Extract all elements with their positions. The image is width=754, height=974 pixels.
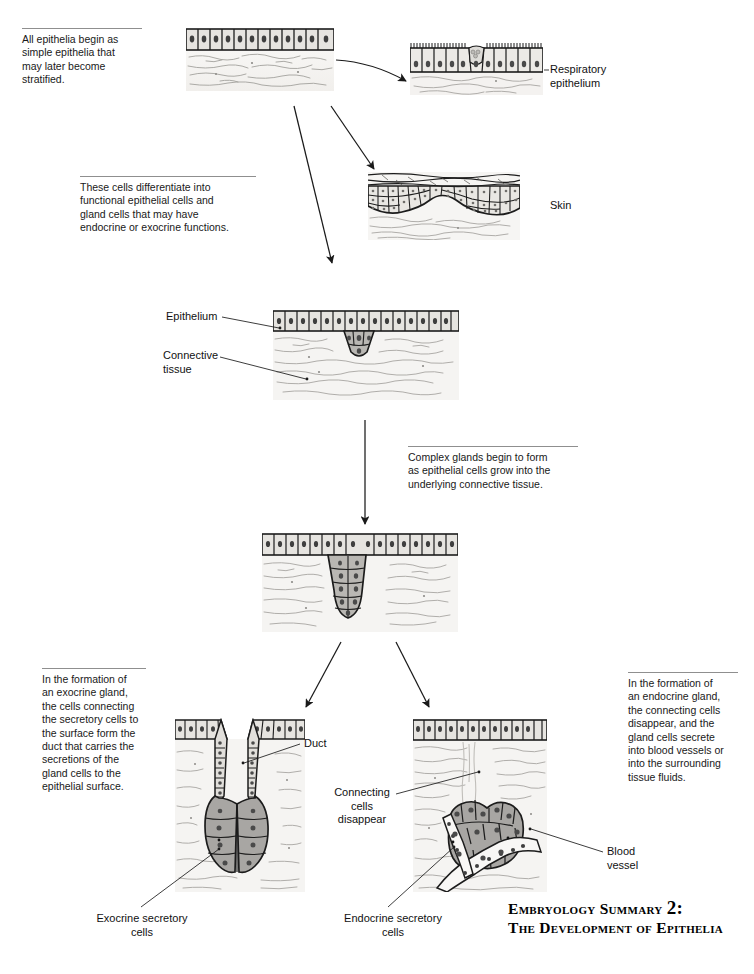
connector-overlay (0, 0, 754, 974)
caption-line-1: Embryology Summary 2: (508, 898, 723, 918)
label-respiratory-epithelium: Respiratory epithelium (550, 63, 606, 90)
arrow-growing-to-exocrine (306, 642, 341, 707)
figure-growing-gland (262, 532, 458, 632)
arrow-simple-to-early-gland (294, 106, 332, 263)
note-all-epithelia-begin: All epithelia begin as simple epithelia … (22, 28, 142, 87)
label-blood-vessel: Blood vessel (607, 845, 638, 872)
note-endocrine-gland-formation: In the formation of an endocrine gland, … (628, 672, 738, 784)
figure-respiratory-epithelium (410, 43, 543, 95)
embryology-summary-page: All epithelia begin as simple epithelia … (0, 0, 754, 974)
figure-endocrine-gland (413, 718, 547, 892)
figure-exocrine-gland (175, 718, 305, 892)
caption-line-1-prefix: Embryology Summary (508, 900, 667, 917)
caption-line-2: The Development of Epithelia (508, 918, 723, 937)
figure-early-gland-invagination (273, 310, 459, 400)
note-cells-differentiate: These cells differentiate into functiona… (80, 176, 256, 235)
figure-skin (368, 172, 520, 240)
label-connecting-cells-disappear: Connecting cells disappear (330, 786, 394, 827)
label-exocrine-secretory-cells: Exocrine secretory cells (62, 912, 222, 939)
label-skin: Skin (550, 199, 571, 213)
note-complex-glands-form: Complex glands begin to form as epitheli… (408, 446, 578, 491)
arrow-simple-to-skin (331, 106, 374, 169)
figure-simple-epithelium (186, 27, 334, 91)
leader-epithelium (222, 317, 279, 328)
label-epithelium: Epithelium (166, 310, 217, 324)
caption-number: 2: (667, 897, 683, 918)
arrow-simple-to-respiratory (336, 60, 406, 81)
arrow-growing-to-endocrine (396, 642, 429, 707)
label-duct: Duct (304, 737, 327, 751)
summary-caption: Embryology Summary 2: The Development of… (508, 898, 723, 937)
note-exocrine-gland-formation: In the formation of an exocrine gland, t… (42, 668, 146, 794)
label-connective-tissue: Connective tissue (163, 349, 218, 376)
label-endocrine-secretory-cells: Endocrine secretory cells (310, 912, 476, 939)
